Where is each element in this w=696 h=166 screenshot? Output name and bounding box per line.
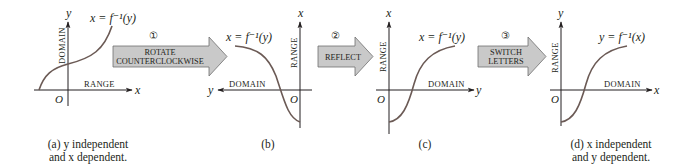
panel-b-equation: x = f⁻¹(y) (225, 30, 272, 44)
step-2-arrow: ② REFLECT (318, 30, 373, 76)
step-1-label-line2: COUNTERCLOCKWISE (116, 57, 204, 66)
panel-c-horizontal-var: y (475, 83, 482, 97)
panel-d-caption-line1: (d) x independent (561, 138, 661, 151)
panel-b-horizontal-var: y (207, 83, 214, 97)
panel-d-vertical-var: y (557, 6, 564, 20)
panel-c: x y O x = f⁻¹(y) RANGE DOMAIN (376, 6, 482, 134)
panel-a-caption-line2: and x dependent. (38, 151, 138, 164)
step-3-label-line2: LETTERS (488, 57, 524, 66)
step-1-arrow: ① ROTATE COUNTERCLOCKWISE (113, 30, 227, 76)
step-2-number: ② (331, 30, 340, 41)
panel-d-caption-line2: and y dependent. (561, 151, 661, 164)
panel-a-horizontal-axis-label: RANGE (84, 79, 115, 89)
panel-b-vertical-axis-label: RANGE (289, 37, 299, 68)
step-3-arrow: ③ SWITCH LETTERS (478, 30, 546, 76)
panel-b: x y O x = f⁻¹(y) RANGE DOMAIN (207, 6, 312, 128)
step-1-label-line1: ROTATE (144, 48, 175, 57)
panel-d-origin: O (551, 93, 559, 105)
panel-a-equation: x = f⁻¹(y) (89, 11, 136, 25)
step-3-number: ③ (501, 30, 510, 41)
step-2-label-line1: REFLECT (325, 53, 361, 62)
panel-a-horizontal-var: x (134, 83, 141, 97)
step-3-label-line1: SWITCH (490, 48, 522, 57)
step-1-number: ① (149, 30, 158, 41)
panel-a-caption-line1: (a) y independent (38, 138, 138, 151)
panel-c-vertical-axis-label: RANGE (378, 41, 388, 72)
panel-c-horizontal-axis-label: DOMAIN (428, 79, 465, 89)
panel-b-caption-line1: (b) (243, 138, 293, 151)
panel-c-equation: x = f⁻¹(y) (418, 30, 465, 44)
panel-a-caption: (a) y independent and x dependent. (38, 138, 138, 164)
panel-b-horizontal-axis-label: DOMAIN (229, 79, 266, 89)
panel-d-horizontal-axis-label: DOMAIN (604, 79, 641, 89)
panel-c-caption: (c) (400, 138, 450, 151)
panel-d-horizontal-var: x (653, 83, 660, 97)
panel-c-vertical-var: x (385, 6, 392, 20)
panel-c-caption-line1: (c) (400, 138, 450, 151)
panel-a-vertical-axis-label: DOMAIN (57, 27, 67, 64)
panel-b-caption: (b) (243, 138, 293, 151)
panel-b-vertical-var: x (297, 6, 304, 20)
panel-d-equation: y = f⁻¹(x) (598, 30, 645, 44)
panel-d-vertical-axis-label: RANGE (550, 42, 560, 73)
panel-b-origin: O (290, 93, 298, 105)
inverse-function-diagram: y x O x = f⁻¹(y) DOMAIN RANGE ① ROTATE C… (0, 0, 696, 166)
panel-d: y x O y = f⁻¹(x) RANGE DOMAIN (550, 6, 660, 126)
panel-a-origin: O (55, 93, 63, 105)
panel-c-origin: O (377, 93, 385, 105)
panel-a-vertical-var: y (65, 6, 72, 20)
panel-d-caption: (d) x independent and y dependent. (561, 138, 661, 164)
